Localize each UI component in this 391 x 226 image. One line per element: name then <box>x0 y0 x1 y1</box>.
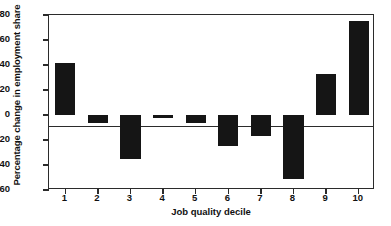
bar-decile-1 <box>55 63 75 116</box>
y-tick-label--60: -60 <box>0 184 10 194</box>
bar-decile-4 <box>153 115 173 118</box>
x-tick-label-2: 2 <box>85 192 109 203</box>
x-tick-label-5: 5 <box>183 192 207 203</box>
y-axis-title: Percentage change in employment share <box>10 0 24 190</box>
bar-decile-8 <box>283 115 303 179</box>
bar-decile-10 <box>349 21 369 115</box>
y-tick-label-60: 60 <box>0 34 10 44</box>
y-tick-label-20: 20 <box>0 84 10 94</box>
y-tick-80 <box>43 14 49 16</box>
y-tick-label--20: -20 <box>0 134 10 144</box>
x-tick-label-10: 10 <box>346 192 370 203</box>
x-tick-label-9: 9 <box>313 192 337 203</box>
zero-baseline <box>49 126 373 128</box>
x-tick-label-8: 8 <box>281 192 305 203</box>
y-tick-60 <box>43 39 49 41</box>
y-tick-label--40: -40 <box>0 159 10 169</box>
y-tick-0 <box>43 114 49 116</box>
x-tick-label-7: 7 <box>248 192 272 203</box>
bar-decile-7 <box>251 115 271 136</box>
x-axis-title: Job quality decile <box>48 206 374 218</box>
chart-figure: Percentage change in employment share -6… <box>0 0 391 226</box>
y-tick--20 <box>43 139 49 141</box>
y-tick-label-80: 80 <box>0 9 10 19</box>
bar-decile-6 <box>218 115 238 146</box>
plot-area <box>48 14 374 189</box>
bar-decile-2 <box>88 115 108 123</box>
y-tick-label-40: 40 <box>0 59 10 69</box>
x-tick-label-1: 1 <box>52 192 76 203</box>
x-tick-label-6: 6 <box>215 192 239 203</box>
y-tick-40 <box>43 64 49 66</box>
y-tick-label-0: 0 <box>0 109 10 119</box>
bar-decile-5 <box>186 115 206 123</box>
bar-decile-9 <box>316 74 336 115</box>
y-tick--40 <box>43 164 49 166</box>
y-tick--60 <box>43 189 49 191</box>
bar-decile-3 <box>120 115 140 159</box>
x-tick-label-4: 4 <box>150 192 174 203</box>
x-tick-label-3: 3 <box>118 192 142 203</box>
y-tick-20 <box>43 89 49 91</box>
